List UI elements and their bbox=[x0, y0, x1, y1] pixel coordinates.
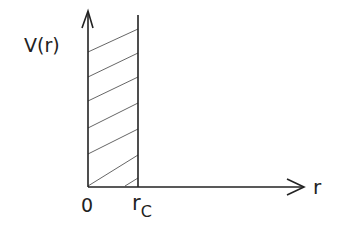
hatch-lines bbox=[88, 29, 138, 186]
cutoff-label: rC bbox=[132, 193, 152, 220]
cutoff-label-main: r bbox=[132, 191, 141, 215]
cutoff-label-sub: C bbox=[141, 202, 152, 221]
x-axis-label: r bbox=[313, 177, 321, 197]
origin-label: 0 bbox=[81, 196, 93, 215]
x-axis bbox=[88, 179, 304, 195]
y-axis-label: V(r) bbox=[24, 36, 60, 55]
